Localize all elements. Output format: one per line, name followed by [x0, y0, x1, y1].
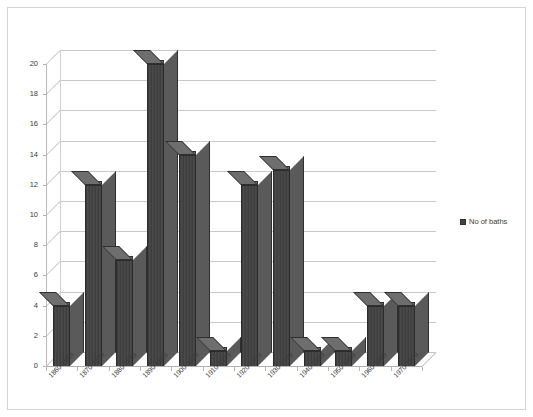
y-tick-label-16: 16: [22, 120, 38, 128]
y-tick-label-2: 2: [22, 332, 38, 340]
y-tick-label-14: 14: [22, 151, 38, 159]
y-tick-label-8: 8: [22, 241, 38, 249]
bar-side-face: [290, 156, 304, 366]
bar-front-face: [241, 185, 258, 366]
bar-side-face: [258, 171, 272, 366]
gridline-y-16: [60, 110, 436, 111]
bar-front-face: [116, 260, 133, 366]
bar-side-face: [352, 337, 366, 366]
gridline-depth-16: [46, 111, 61, 126]
bar-top-bevel: [71, 171, 102, 185]
y-tick-label-20: 20: [22, 60, 38, 68]
gridline-y-18: [60, 80, 436, 81]
y-tick-label-12: 12: [22, 181, 38, 189]
x-tick-mark-11: [391, 367, 392, 371]
y-tick-label-6: 6: [22, 271, 38, 279]
x-tick-mark-0: [46, 367, 47, 371]
bar-front-face: [179, 155, 196, 366]
x-tick-mark-7: [265, 367, 266, 371]
chart-frame: 02468101214161820 1860-18691870-18791880…: [7, 7, 526, 410]
y-tick-label-10: 10: [22, 211, 38, 219]
x-tick-mark-9: [328, 367, 329, 371]
bar-top-bevel: [133, 50, 164, 64]
gridline-y-20: [60, 50, 436, 51]
bar-1920-1929[interactable]: [241, 171, 272, 366]
y-tick-label-0: 0: [22, 362, 38, 370]
bar-1900-1909[interactable]: [179, 141, 210, 366]
gridline-y-14: [60, 141, 436, 142]
bar-top-bevel: [227, 171, 258, 185]
gridline-depth-18: [46, 80, 61, 95]
gridline-depth-20: [46, 50, 61, 65]
x-tick-mark-5: [203, 367, 204, 371]
bar-front-face: [85, 185, 102, 366]
gridline-depth-14: [46, 141, 61, 156]
gridline-depth-6: [46, 262, 61, 277]
x-tick-mark-8: [297, 367, 298, 371]
bar-side-face: [164, 50, 178, 366]
bar-side-face: [133, 246, 147, 366]
bar-top-bevel: [259, 156, 290, 170]
x-tick-mark-1: [77, 367, 78, 371]
x-tick-mark-10: [359, 367, 360, 371]
bar-1890-1899[interactable]: [147, 50, 178, 366]
x-tick-mark-6: [234, 367, 235, 371]
gridline-depth-12: [46, 171, 61, 186]
bar-front-face: [273, 170, 290, 366]
legend-label: No of baths: [469, 218, 507, 226]
y-tick-label-4: 4: [22, 302, 38, 310]
gridline-depth-8: [46, 231, 61, 246]
chart-legend: No of baths: [460, 218, 507, 226]
x-tick-mark-end: [422, 367, 423, 371]
bar-top-bevel: [353, 292, 384, 306]
bar-side-face: [196, 141, 210, 366]
bar-top-bevel: [39, 292, 70, 306]
x-tick-mark-3: [140, 367, 141, 371]
bar-1930-1939[interactable]: [273, 156, 304, 366]
x-tick-mark-4: [171, 367, 172, 371]
legend-swatch-icon: [460, 219, 466, 225]
gridline-depth-10: [46, 201, 61, 216]
bar-front-face: [147, 64, 164, 366]
bar-1870-1879[interactable]: [85, 171, 116, 366]
y-tick-label-18: 18: [22, 90, 38, 98]
bar-side-face: [102, 171, 116, 366]
y-axis-line-front: [46, 64, 47, 366]
x-tick-mark-2: [109, 367, 110, 371]
bar-1880-1889[interactable]: [116, 246, 147, 366]
chart-plot-area: 02468101214161820 1860-18691870-18791880…: [8, 8, 526, 410]
